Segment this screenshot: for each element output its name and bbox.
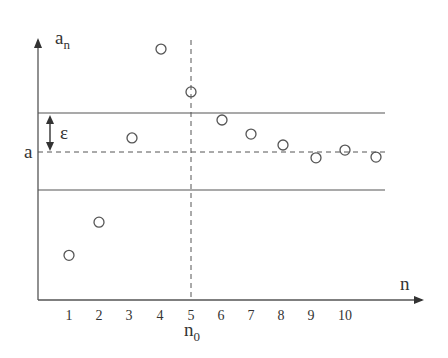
- data-point-n3: [127, 133, 137, 143]
- data-point-n4: [156, 44, 166, 54]
- epsilon-double-arrow-icon: [46, 115, 54, 151]
- data-point-n7: [246, 129, 256, 139]
- x-tick-6: 6: [218, 308, 225, 323]
- x-tick-10: 10: [338, 308, 352, 323]
- data-point-n9: [311, 153, 321, 163]
- y-axis-label: an: [55, 27, 70, 52]
- data-point-n11: [371, 152, 381, 162]
- data-point-n10: [340, 145, 350, 155]
- data-point-n2: [94, 217, 104, 227]
- epsilon-label: ε: [60, 122, 68, 143]
- data-point-n1: [64, 250, 74, 260]
- x-tick-labels: 1 2 3 4 5 6 7 8 9 10: [66, 308, 353, 323]
- x-tick-3: 3: [126, 308, 133, 323]
- limit-label: a: [24, 141, 33, 162]
- x-axis-label: n: [400, 273, 410, 294]
- x-tick-5: 5: [188, 308, 195, 323]
- x-tick-9: 9: [308, 308, 315, 323]
- x-tick-2: 2: [96, 308, 103, 323]
- x-tick-4: 4: [157, 308, 164, 323]
- x-tick-7: 7: [248, 308, 255, 323]
- data-point-n6: [217, 115, 227, 125]
- x-tick-1: 1: [66, 308, 73, 323]
- data-point-n8: [278, 140, 288, 150]
- x-tick-8: 8: [278, 308, 285, 323]
- sequence-convergence-diagram: an n a ε n0 1 2 3 4 5 6 7 8 9 10: [0, 0, 448, 358]
